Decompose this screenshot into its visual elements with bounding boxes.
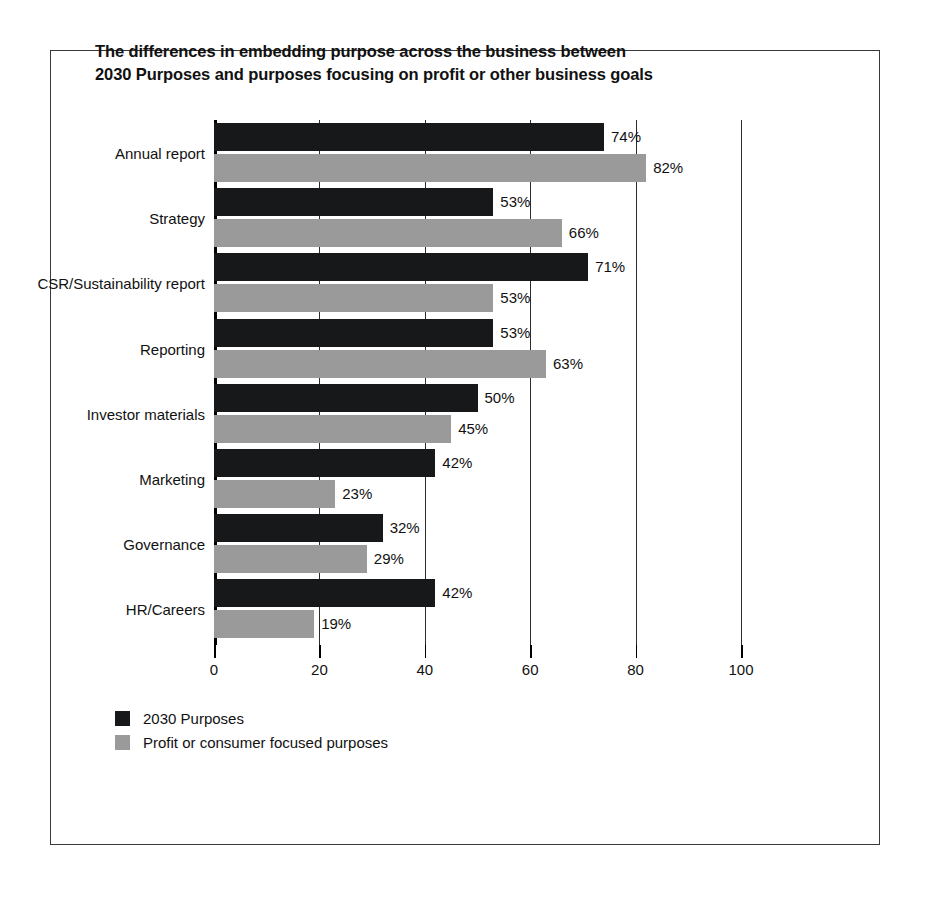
category-label: Investor materials [0, 406, 205, 423]
bar-value-label: 53% [500, 284, 530, 312]
category-axis: Annual reportStrategyCSR/Sustainability … [0, 120, 205, 645]
bar-group: 74%82% [214, 123, 741, 182]
category-label: Strategy [0, 210, 205, 227]
bar-series-a[interactable] [214, 253, 588, 281]
bar-value-label: 82% [653, 154, 683, 182]
legend-item[interactable]: Profit or consumer focused purposes [115, 734, 388, 751]
bar-value-label: 63% [553, 350, 583, 378]
legend-label: Profit or consumer focused purposes [143, 734, 388, 751]
legend-item[interactable]: 2030 Purposes [115, 710, 388, 727]
bar-group: 71%53% [214, 253, 741, 312]
bar-group: 42%23% [214, 449, 741, 508]
x-tick-0 [214, 645, 216, 658]
bar-value-label: 66% [569, 219, 599, 247]
bar-value-label: 32% [390, 514, 420, 542]
x-tick-20 [319, 645, 321, 658]
bar-series-a[interactable] [214, 449, 435, 477]
bar-group: 42%19% [214, 579, 741, 638]
legend-swatch-icon [115, 711, 130, 726]
bar-value-label: 42% [442, 449, 472, 477]
chart-title-line-2: 2030 Purposes and purposes focusing on p… [95, 63, 735, 86]
bar-series-a[interactable] [214, 514, 383, 542]
chart-title: The differences in embedding purpose acr… [95, 40, 735, 87]
category-label: Governance [0, 536, 205, 553]
bar-value-label: 23% [342, 480, 372, 508]
bar-value-label: 19% [321, 610, 351, 638]
bar-series-a[interactable] [214, 123, 604, 151]
category-label: Reporting [0, 341, 205, 358]
x-tick-60 [530, 645, 532, 658]
gridline-100 [741, 120, 742, 645]
category-label: Annual report [0, 145, 205, 162]
bar-series-a[interactable] [214, 579, 435, 607]
category-label: Marketing [0, 471, 205, 488]
x-tick-label-20: 20 [311, 661, 328, 678]
bar-series-b[interactable] [214, 219, 562, 247]
x-tick-label-40: 40 [416, 661, 433, 678]
bar-series-b[interactable] [214, 545, 367, 573]
x-tick-100 [741, 645, 743, 658]
x-tick-80 [636, 645, 638, 658]
chart-legend: 2030 PurposesProfit or consumer focused … [115, 710, 388, 758]
bar-value-label: 42% [442, 579, 472, 607]
bar-group: 53%66% [214, 188, 741, 247]
bar-group: 50%45% [214, 384, 741, 443]
bar-series-a[interactable] [214, 319, 493, 347]
bar-group: 32%29% [214, 514, 741, 573]
x-tick-label-100: 100 [728, 661, 753, 678]
bar-value-label: 74% [611, 123, 641, 151]
bar-series-b[interactable] [214, 154, 646, 182]
bar-group: 53%63% [214, 319, 741, 378]
bar-value-label: 50% [485, 384, 515, 412]
bar-series-b[interactable] [214, 610, 314, 638]
x-tick-40 [425, 645, 427, 658]
bar-value-label: 29% [374, 545, 404, 573]
bar-series-b[interactable] [214, 415, 451, 443]
legend-swatch-icon [115, 735, 130, 750]
bar-series-a[interactable] [214, 384, 478, 412]
bar-series-b[interactable] [214, 284, 493, 312]
x-tick-label-0: 0 [210, 661, 218, 678]
bar-series-b[interactable] [214, 350, 546, 378]
bar-value-label: 45% [458, 415, 488, 443]
legend-label: 2030 Purposes [143, 710, 244, 727]
x-tick-label-60: 60 [522, 661, 539, 678]
bar-value-label: 71% [595, 253, 625, 281]
bar-value-label: 53% [500, 188, 530, 216]
chart-title-line-1: The differences in embedding purpose acr… [95, 40, 735, 63]
plot-area: 02040608010074%82%53%66%71%53%53%63%50%4… [214, 120, 741, 645]
bar-value-label: 53% [500, 319, 530, 347]
category-label: HR/Careers [0, 601, 205, 618]
bar-series-a[interactable] [214, 188, 493, 216]
bar-series-b[interactable] [214, 480, 335, 508]
category-label: CSR/Sustainability report [0, 275, 205, 292]
x-tick-label-80: 80 [627, 661, 644, 678]
